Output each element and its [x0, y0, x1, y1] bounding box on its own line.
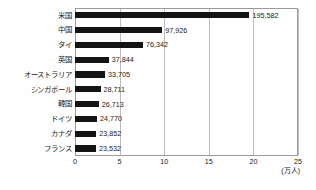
- category-label: 米国: [0, 12, 72, 19]
- bar-track: 33,705: [75, 67, 298, 82]
- bar-row: シンガポール28,711: [0, 82, 316, 97]
- bar-row: タイ76,342: [0, 38, 316, 53]
- bar-track: 26,713: [75, 97, 298, 112]
- bar-row: オーストラリア33,705: [0, 67, 316, 82]
- bar-track: 76,342: [75, 38, 298, 53]
- x-tick-label: 20: [249, 158, 257, 165]
- x-tick-label: 15: [205, 158, 213, 165]
- bar-rows: 米国195,582中国97,926タイ76,342英国37,844オーストラリア…: [0, 8, 316, 156]
- bar-value-label: 37,844: [112, 56, 134, 63]
- bar: [75, 42, 143, 48]
- category-label: フランス: [0, 145, 72, 152]
- x-axis: (万人) 0510152025: [75, 156, 298, 176]
- x-tick-label: 5: [118, 158, 122, 165]
- bar-row: カナダ23,852: [0, 126, 316, 141]
- bar-track: 28,711: [75, 82, 298, 97]
- bar-row: 中国97,926: [0, 23, 316, 38]
- bar-track: 195,582: [75, 8, 298, 23]
- bar-track: 37,844: [75, 52, 298, 67]
- category-label: 韓国: [0, 100, 72, 107]
- bar: [75, 86, 101, 92]
- bar-value-label: 23,852: [99, 130, 121, 137]
- bar: [75, 12, 249, 18]
- category-label: カナダ: [0, 130, 72, 137]
- bar: [75, 145, 96, 151]
- bar-value-label: 24,770: [100, 115, 122, 122]
- category-label: 英国: [0, 56, 72, 63]
- x-tick-label: 0: [73, 158, 77, 165]
- bar-row: ドイツ24,770: [0, 112, 316, 127]
- bar-track: 24,770: [75, 112, 298, 127]
- category-label: ドイツ: [0, 115, 72, 122]
- bar-row: 英国37,844: [0, 52, 316, 67]
- bar-track: 97,926: [75, 23, 298, 38]
- category-label: シンガポール: [0, 86, 72, 93]
- category-label: 中国: [0, 26, 72, 33]
- bar-value-label: 33,705: [108, 71, 130, 78]
- x-tick-label: 25: [294, 158, 302, 165]
- bar-value-label: 76,342: [146, 41, 168, 48]
- bar-value-label: 195,582: [252, 12, 278, 19]
- bar-row: 米国195,582: [0, 8, 316, 23]
- x-tick-label: 10: [160, 158, 168, 165]
- bar-chart: 米国195,582中国97,926タイ76,342英国37,844オーストラリア…: [0, 0, 316, 190]
- bar-value-label: 28,711: [104, 86, 125, 93]
- category-label: オーストラリア: [0, 71, 72, 78]
- bar: [75, 101, 99, 107]
- bar: [75, 71, 105, 77]
- bar-value-label: 23,532: [99, 145, 121, 152]
- bar: [75, 116, 97, 122]
- x-axis-unit-label: (万人): [281, 167, 300, 174]
- bar-track: 23,532: [75, 141, 298, 156]
- bar-track: 23,852: [75, 126, 298, 141]
- bar-value-label: 26,713: [102, 101, 124, 108]
- bar: [75, 131, 96, 137]
- bar-row: フランス23,532: [0, 141, 316, 156]
- bar: [75, 27, 162, 33]
- bar-row: 韓国26,713: [0, 97, 316, 112]
- bar-value-label: 97,926: [165, 27, 187, 34]
- bar: [75, 57, 109, 63]
- category-label: タイ: [0, 41, 72, 48]
